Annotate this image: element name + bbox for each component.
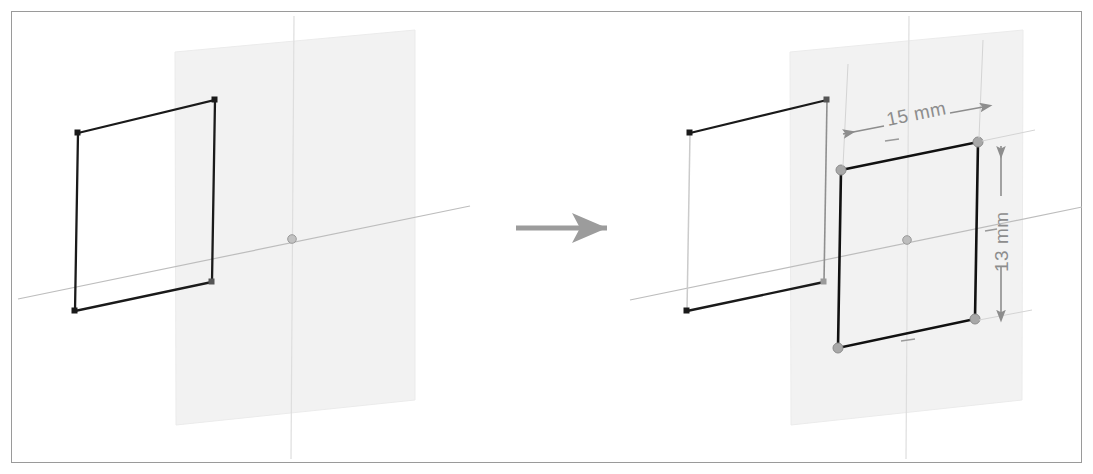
panel-before bbox=[18, 16, 470, 459]
vertex-marker[interactable] bbox=[209, 279, 215, 285]
height-dimension-label: 13 mm bbox=[991, 211, 1012, 272]
origin-point-after[interactable] bbox=[903, 236, 912, 245]
drag-handle[interactable] bbox=[836, 165, 846, 175]
origin-point-before[interactable] bbox=[288, 235, 297, 244]
panel-after: 15 mm 13 mm bbox=[630, 16, 1082, 459]
vertex-marker[interactable] bbox=[821, 279, 827, 285]
vertex-marker[interactable] bbox=[75, 130, 81, 136]
drag-handle[interactable] bbox=[833, 343, 843, 353]
sketch-plane-before bbox=[175, 30, 415, 425]
figure-graphics: 15 mm 13 mm bbox=[0, 0, 1093, 474]
figure-canvas: 15 mm 13 mm bbox=[0, 0, 1093, 474]
drag-handle[interactable] bbox=[970, 314, 980, 324]
reference-rect-left-edge bbox=[687, 133, 690, 311]
drag-handle[interactable] bbox=[973, 137, 983, 147]
vertex-marker[interactable] bbox=[72, 308, 78, 314]
vertex-marker[interactable] bbox=[684, 308, 690, 314]
vertex-marker[interactable] bbox=[687, 130, 693, 136]
vertex-marker[interactable] bbox=[212, 97, 218, 103]
vertex-marker[interactable] bbox=[824, 97, 830, 103]
